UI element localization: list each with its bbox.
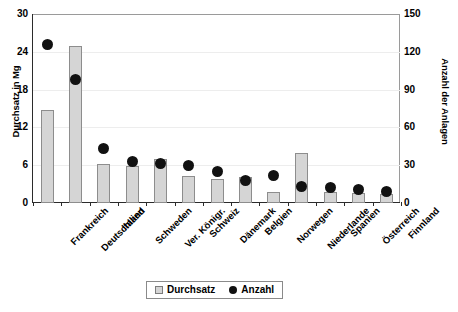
bar-Spanien [324,192,337,203]
y-tick-left-6: 6 [2,160,28,170]
y-tick-right-150: 150 [404,9,430,19]
legend-label-durchsatz: Durchsatz [167,284,215,295]
chart-legend: Durchsatz Anzahl [146,281,283,299]
legend-label-anzahl: Anzahl [241,284,274,295]
y-tick-left-24: 24 [2,47,28,57]
y-tick-left-18: 18 [2,85,28,95]
plot-right-border [399,14,400,202]
legend-item-durchsatz: Durchsatz [155,284,215,295]
dot-swatch-icon [229,286,237,294]
gridline-24 [33,52,400,53]
gridline-12 [33,127,400,128]
y-tick-left-0: 0 [2,198,28,208]
y-tick-left-12: 12 [2,122,28,132]
bar-Norwegen [267,192,280,203]
bar-Niederlande [295,153,308,203]
y-axis-left-ticks: 0612182430 [2,0,28,312]
bar-Dänemark [211,179,224,203]
bar-Italien [97,164,110,203]
y-axis-right-title: Anzahl der Anlagen [440,47,451,157]
plot-area [32,14,400,203]
point-Dänemark [212,166,223,177]
point-Norwegen [268,170,279,181]
point-Schweden [127,156,138,167]
plot-top-border [33,14,400,15]
x-label-Italien: Italien [119,205,146,232]
chart-container: Durchsatz in Mg Anzahl der Anlagen 06121… [0,0,458,312]
legend-item-anzahl: Anzahl [229,284,274,295]
bar-Frankreich [41,110,54,203]
y-tick-right-30: 30 [404,160,430,170]
y-tick-right-60: 60 [404,122,430,132]
bar-Schweden [126,166,139,203]
bar-swatch-icon [155,286,163,294]
x-axis-labels: FrankreichDeutschlandItalienSchwedenVer.… [32,205,400,267]
bar-Deutschland [69,46,82,203]
y-tick-left-30: 30 [2,9,28,19]
y-tick-right-120: 120 [404,47,430,57]
point-Italien [98,143,109,154]
x-tick-13 [401,202,402,206]
point-Frankreich [42,39,53,50]
y-tick-right-90: 90 [404,85,430,95]
y-axis-right-ticks: 0306090120150 [404,0,430,312]
gridline-18 [33,90,400,91]
y-tick-right-0: 0 [404,198,430,208]
point-Schweiz [183,160,194,171]
point-Deutschland [70,74,81,85]
point-Belgien [240,175,251,186]
point-Österreich [353,184,364,195]
bar-Schweiz [182,176,195,203]
